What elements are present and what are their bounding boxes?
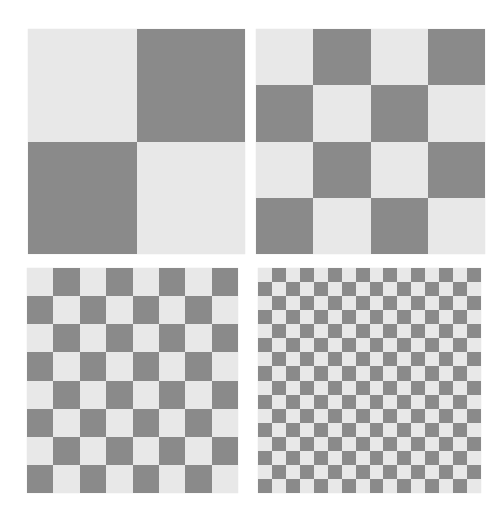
checker-cell	[453, 465, 467, 479]
checker-cell	[313, 142, 370, 198]
checker-cell	[80, 352, 106, 380]
checker-cell	[356, 338, 370, 352]
checker-cell	[428, 142, 485, 198]
checker-cell	[185, 465, 211, 493]
checker-cell	[314, 310, 328, 324]
checker-cell	[428, 198, 485, 254]
checker-cell	[212, 409, 238, 437]
checker-cell	[286, 324, 300, 338]
checker-cell	[300, 423, 314, 437]
checker-cell	[356, 352, 370, 366]
checker-cell	[53, 352, 79, 380]
checker-cell	[133, 268, 159, 296]
checker-cell	[133, 437, 159, 465]
checkerboard-4x4	[256, 29, 485, 254]
checker-cell	[133, 324, 159, 352]
checker-cell	[27, 352, 53, 380]
checker-cell	[53, 268, 79, 296]
checker-cell	[467, 395, 481, 409]
checker-cell	[342, 423, 356, 437]
checker-cell	[356, 366, 370, 380]
checker-cell	[342, 310, 356, 324]
checker-cell	[467, 338, 481, 352]
checkerboard-8x8	[27, 268, 238, 493]
checker-cell	[383, 423, 397, 437]
checker-cell	[212, 296, 238, 324]
checker-cell	[106, 296, 132, 324]
checker-cell	[439, 352, 453, 366]
checker-cell	[53, 296, 79, 324]
checker-cell	[106, 437, 132, 465]
checker-cell	[258, 282, 272, 296]
checker-cell	[425, 423, 439, 437]
checker-cell	[439, 395, 453, 409]
checker-cell	[371, 29, 428, 85]
checker-cell	[328, 423, 342, 437]
checker-cell	[439, 409, 453, 423]
checker-cell	[467, 409, 481, 423]
checker-cell	[286, 437, 300, 451]
checker-cell	[212, 437, 238, 465]
checker-cell	[342, 268, 356, 282]
checker-cell	[428, 29, 485, 85]
checker-cell	[356, 324, 370, 338]
checker-cell	[258, 324, 272, 338]
checker-cell	[185, 296, 211, 324]
checker-cell	[185, 437, 211, 465]
checker-cell	[212, 381, 238, 409]
checker-cell	[342, 479, 356, 493]
checker-cell	[411, 324, 425, 338]
checker-cell	[53, 465, 79, 493]
checker-cell	[328, 366, 342, 380]
checker-cell	[383, 479, 397, 493]
checker-cell	[439, 479, 453, 493]
checker-cell	[272, 451, 286, 465]
checker-cell	[286, 409, 300, 423]
checker-cell	[286, 423, 300, 437]
checker-cell	[397, 437, 411, 451]
checker-cell	[27, 465, 53, 493]
checker-cell	[328, 437, 342, 451]
checker-cell	[159, 381, 185, 409]
checker-cell	[439, 366, 453, 380]
checker-cell	[258, 479, 272, 493]
checker-cell	[425, 324, 439, 338]
checker-cell	[328, 296, 342, 310]
checker-cell	[272, 268, 286, 282]
checker-cell	[106, 352, 132, 380]
checker-cell	[411, 352, 425, 366]
checker-cell	[467, 479, 481, 493]
checker-cell	[342, 381, 356, 395]
checker-cell	[397, 282, 411, 296]
checker-cell	[133, 381, 159, 409]
checker-cell	[356, 268, 370, 282]
checker-cell	[314, 381, 328, 395]
checker-cell	[272, 395, 286, 409]
checker-cell	[411, 437, 425, 451]
checker-cell	[397, 352, 411, 366]
checker-cell	[342, 352, 356, 366]
checker-cell	[272, 296, 286, 310]
checker-cell	[411, 409, 425, 423]
checker-cell	[397, 409, 411, 423]
checker-cell	[272, 324, 286, 338]
checker-cell	[328, 381, 342, 395]
checker-cell	[397, 338, 411, 352]
checker-cell	[383, 268, 397, 282]
checker-cell	[342, 451, 356, 465]
checker-cell	[356, 395, 370, 409]
checker-cell	[439, 338, 453, 352]
checker-cell	[314, 465, 328, 479]
checker-cell	[272, 352, 286, 366]
checker-cell	[453, 268, 467, 282]
checker-cell	[185, 409, 211, 437]
checker-cell	[397, 465, 411, 479]
checker-cell	[467, 451, 481, 465]
checker-cell	[256, 85, 313, 141]
checker-cell	[453, 338, 467, 352]
checker-cell	[453, 381, 467, 395]
checker-cell	[425, 479, 439, 493]
checker-cell	[411, 395, 425, 409]
checker-cell	[256, 142, 313, 198]
checker-cell	[425, 409, 439, 423]
